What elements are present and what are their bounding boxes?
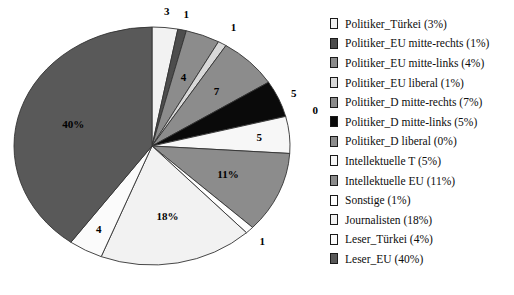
legend-label: Journalisten (18%): [345, 214, 432, 226]
legend-label: Politiker_Türkei (3%): [345, 18, 447, 30]
legend-item[interactable]: Leser_Türkei (4%): [330, 230, 514, 250]
pie-slice-value-label: 11%: [217, 169, 238, 180]
legend-swatch-icon: [330, 175, 338, 186]
pie-slice-value-label: 7: [214, 85, 220, 96]
pie-slice-value-label: 1: [260, 236, 266, 247]
legend-swatch-icon: [330, 195, 338, 206]
legend-item[interactable]: Intellektuelle T (5%): [330, 151, 514, 171]
pie-chart-figure: 3141750511%118%440% Politiker_Türkei (3%…: [0, 0, 514, 295]
legend-swatch-icon: [330, 18, 338, 29]
legend-swatch-icon: [330, 136, 338, 147]
legend-label: Sonstige (1%): [345, 194, 410, 206]
legend-swatch-icon: [330, 116, 338, 127]
pie-slice-value-label: 4: [96, 224, 102, 235]
legend-label: Politiker_EU mitte-links (4%): [345, 57, 484, 69]
legend-item[interactable]: Politiker_D mitte-rechts (7%): [330, 92, 514, 112]
legend-swatch-icon: [330, 77, 338, 88]
pie-slice-value-label: 1: [184, 8, 190, 19]
legend-label: Leser_EU (40%): [345, 253, 423, 265]
pie-slice-value-label: 4: [181, 72, 187, 83]
pie-slice-value-label: 5: [291, 88, 297, 99]
legend-item[interactable]: Politiker_D liberal (0%): [330, 132, 514, 152]
pie-plot-area: 3141750511%118%440%: [0, 0, 310, 295]
legend-swatch-icon: [330, 38, 338, 49]
legend-label: Leser_Türkei (4%): [345, 233, 433, 245]
legend-label: Politiker_D liberal (0%): [345, 135, 457, 147]
legend-item[interactable]: Intellektuelle EU (11%): [330, 171, 514, 191]
legend-item[interactable]: Leser_EU (40%): [330, 249, 514, 269]
legend-swatch-icon: [330, 97, 338, 108]
legend-item[interactable]: Politiker_D mitte-links (5%): [330, 112, 514, 132]
legend-swatch-icon: [330, 214, 338, 225]
legend-item[interactable]: Journalisten (18%): [330, 210, 514, 230]
legend-item[interactable]: Politiker_EU mitte-rechts (1%): [330, 34, 514, 54]
pie-slice-value-label: 18%: [157, 211, 179, 222]
legend-item[interactable]: Politiker_EU liberal (1%): [330, 73, 514, 93]
legend-swatch-icon: [330, 57, 338, 68]
pie-slice-value-label: 0: [312, 105, 318, 116]
legend-label: Intellektuelle T (5%): [345, 155, 441, 167]
legend-label: Politiker_EU mitte-rechts (1%): [345, 37, 489, 49]
pie-slice-value-label: 40%: [62, 118, 84, 129]
legend-swatch-icon: [330, 234, 338, 245]
chart-legend: Politiker_Türkei (3%)Politiker_EU mitte-…: [330, 14, 514, 269]
legend-label: Politiker_D mitte-rechts (7%): [345, 96, 482, 108]
legend-label: Politiker_EU liberal (1%): [345, 77, 464, 89]
legend-label: Intellektuelle EU (11%): [345, 175, 455, 187]
legend-label: Politiker_D mitte-links (5%): [345, 116, 477, 128]
legend-item[interactable]: Politiker_Türkei (3%): [330, 14, 514, 34]
legend-item[interactable]: Politiker_EU mitte-links (4%): [330, 53, 514, 73]
pie-svg: [0, 0, 310, 295]
legend-swatch-icon: [330, 253, 338, 264]
legend-item[interactable]: Sonstige (1%): [330, 190, 514, 210]
pie-slice-value-label: 5: [256, 132, 262, 143]
pie-slice-value-label: 3: [164, 5, 170, 16]
pie-slice-value-label: 1: [231, 22, 237, 33]
legend-swatch-icon: [330, 155, 338, 166]
